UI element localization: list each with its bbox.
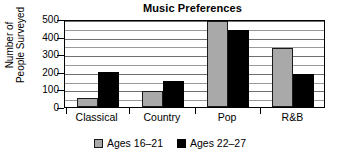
bar-r-b-series-1: [293, 74, 314, 107]
bar-classical-series-0: [77, 98, 98, 107]
y-axis-tick-label: 200: [25, 68, 59, 78]
legend-label: Ages 22–27: [190, 138, 246, 149]
y-axis-tick-label: 400: [25, 33, 59, 43]
y-axis-tick-mark: [57, 90, 64, 91]
y-axis-tick-label: 500: [25, 15, 59, 25]
music-preferences-bar-chart: Music Preferences Number of People Surve…: [0, 0, 340, 160]
x-axis-label-classical: Classical: [64, 111, 129, 124]
y-axis-title: Number of People Surveyed: [0, 0, 30, 93]
y-axis-tick-mark: [57, 108, 64, 109]
x-axis-label-r-b: R&B: [260, 111, 325, 124]
legend-swatch-icon: [177, 139, 186, 148]
bar-r-b-series-0: [272, 48, 293, 107]
y-axis-tick-mark: [57, 73, 64, 74]
x-axis-label-pop: Pop: [195, 111, 260, 124]
bars-layer: [65, 21, 324, 107]
x-axis-label-country: Country: [129, 111, 194, 124]
legend-swatch-icon: [94, 139, 103, 148]
y-axis-title-text: Number of People Surveyed: [4, 7, 27, 83]
bar-country-series-1: [163, 81, 184, 107]
bar-pop-series-0: [207, 21, 228, 107]
y-axis-tick-mark: [57, 20, 64, 21]
legend-item-0: Ages 16–21: [94, 138, 163, 149]
y-axis-tick-label: 300: [25, 50, 59, 60]
chart-title: Music Preferences: [60, 2, 325, 15]
chart-legend: Ages 16–21Ages 22–27: [0, 138, 340, 149]
y-axis-tick-mark: [57, 38, 64, 39]
bar-pop-series-1: [228, 30, 249, 107]
bar-classical-series-1: [98, 72, 119, 107]
legend-label: Ages 16–21: [107, 138, 163, 149]
bar-country-series-0: [142, 91, 163, 107]
y-axis-tick-mark: [57, 55, 64, 56]
plot-area: [64, 20, 325, 108]
legend-item-1: Ages 22–27: [177, 138, 246, 149]
y-axis-tick-label: 0: [25, 103, 59, 113]
y-axis-tick-label: 100: [25, 85, 59, 95]
